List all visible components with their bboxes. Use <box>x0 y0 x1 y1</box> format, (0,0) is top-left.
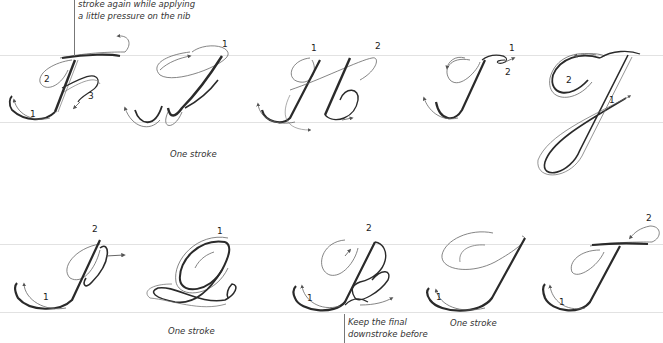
caption-s-one-stroke: One stroke <box>450 317 497 329</box>
letter-q <box>147 237 236 307</box>
stroke-number-r1: 1 <box>307 294 313 303</box>
stroke-number-h2: 2 <box>375 42 381 51</box>
letter-s <box>427 232 525 311</box>
stroke-number-t2: 2 <box>646 214 652 223</box>
stroke-number-f3: 3 <box>88 92 94 101</box>
stroke-number-p1: 1 <box>43 293 49 302</box>
letter-j <box>538 51 640 175</box>
callout-bottom-line1: Keep the final <box>348 316 428 328</box>
letter-f <box>10 36 129 119</box>
letterform-diagram <box>0 0 663 343</box>
stroke-number-j1: 1 <box>609 96 615 105</box>
callout-top-line2: a little pressure on the nib <box>78 10 195 22</box>
letter-h <box>258 58 376 130</box>
stroke-number-g1: 1 <box>222 40 228 49</box>
letter-i <box>424 55 514 119</box>
caption-q-one-stroke: One stroke <box>168 325 215 337</box>
callout-top-text: stroke again while applying a little pre… <box>78 0 195 22</box>
stroke-number-p2: 2 <box>92 225 98 234</box>
stroke-number-t1: 1 <box>559 298 565 307</box>
stroke-number-s1: 1 <box>436 293 442 302</box>
callout-bottom-line2: downstroke before <box>348 328 428 340</box>
letter-p <box>15 240 124 309</box>
callout-top-leader <box>74 0 75 56</box>
caption-g-one-stroke: One stroke <box>170 148 217 160</box>
letter-g <box>125 46 228 127</box>
stroke-number-f1: 1 <box>30 110 36 119</box>
stroke-number-i1: 1 <box>509 44 515 53</box>
stroke-number-r2: 2 <box>366 224 372 233</box>
stroke-number-i2: 2 <box>505 68 511 77</box>
callout-bottom-text: Keep the final downstroke before <box>348 316 428 340</box>
callout-top-line1: stroke again while applying <box>78 0 195 10</box>
stroke-number-f2: 2 <box>44 75 50 84</box>
stroke-number-j2: 2 <box>566 76 572 85</box>
callout-bottom-leader <box>344 314 345 343</box>
stroke-number-h1: 1 <box>311 44 317 53</box>
stroke-number-q1: 1 <box>217 227 223 236</box>
